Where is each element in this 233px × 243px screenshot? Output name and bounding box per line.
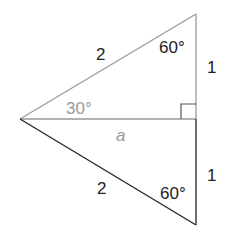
triangle-diagram: 2 60° 1 30° a 2 60° 1 [0,0,233,243]
right-angle-marker [181,104,196,119]
lower-angle-label: 60° [160,184,186,203]
diagram-canvas: 2 60° 1 30° a 2 60° 1 [0,0,233,243]
altitude-label: a [116,126,125,145]
upper-angle-label: 60° [159,38,185,57]
left-angle-label: 30° [66,99,92,118]
upper-hypotenuse-label: 2 [96,45,105,64]
upper-vertical-side-label: 1 [207,58,216,77]
lower-vertical-side-label: 1 [207,166,216,185]
lower-hypotenuse-label: 2 [97,179,106,198]
upper-hypotenuse-line [20,14,196,119]
lower-hypotenuse-line [20,119,196,225]
